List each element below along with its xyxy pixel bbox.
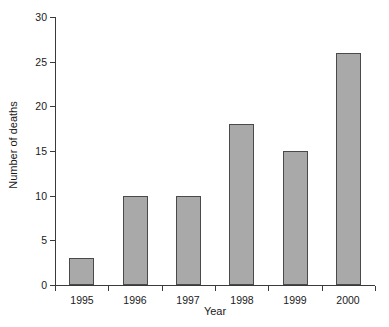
y-tick-label: 10: [21, 189, 47, 203]
y-tick-label: 30: [21, 10, 47, 24]
y-tick-mark: [50, 17, 56, 18]
bar-2000: [336, 53, 361, 285]
y-tick-label: 25: [21, 55, 47, 69]
x-tick-mark: [322, 286, 323, 291]
x-tick-mark: [215, 286, 216, 291]
bar-chart: Number of deaths 051015202530 1995199619…: [0, 0, 389, 327]
y-tick-label: 0: [21, 278, 47, 292]
x-tick-mark: [108, 286, 109, 291]
y-tick-mark: [50, 62, 56, 63]
x-tick-mark: [375, 286, 376, 291]
y-tick-label: 15: [21, 144, 47, 158]
bar-1999: [283, 151, 308, 285]
bar-1998: [229, 124, 254, 285]
bar-1997: [176, 196, 201, 285]
x-tick-mark: [55, 286, 56, 291]
x-tick-mark: [162, 286, 163, 291]
y-tick-label: 20: [21, 99, 47, 113]
x-axis-title: Year: [55, 305, 375, 317]
y-tick-mark: [50, 151, 56, 152]
y-tick-label: 5: [21, 233, 47, 247]
y-tick-mark: [50, 240, 56, 241]
y-tick-mark: [50, 196, 56, 197]
x-tick-mark: [268, 286, 269, 291]
y-tick-mark: [50, 106, 56, 107]
bar-1996: [123, 196, 148, 285]
plot-area: 051015202530 199519961997199819992000: [55, 17, 375, 286]
bar-1995: [69, 258, 94, 285]
